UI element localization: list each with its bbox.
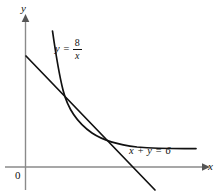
- y-axis-label: y: [21, 3, 26, 14]
- hyperbola-lhs: y: [55, 44, 60, 55]
- hyperbola-equals: =: [62, 44, 71, 55]
- plot-canvas: [0, 0, 220, 195]
- line-equation-label: x + y = 6: [129, 146, 171, 157]
- graph-figure: y x 0 y = 8 x x + y = 6: [0, 0, 220, 195]
- y-axis-arrowhead: [22, 14, 30, 22]
- hyperbola-numerator: 8: [73, 38, 82, 48]
- hyperbola-fraction: 8 x: [73, 38, 82, 61]
- hyperbola-equation-label: y = 8 x: [55, 38, 82, 61]
- hyperbola-denominator: x: [73, 51, 81, 61]
- straight-line: [26, 56, 155, 190]
- origin-label: 0: [15, 170, 21, 181]
- x-axis-label: x: [208, 161, 213, 172]
